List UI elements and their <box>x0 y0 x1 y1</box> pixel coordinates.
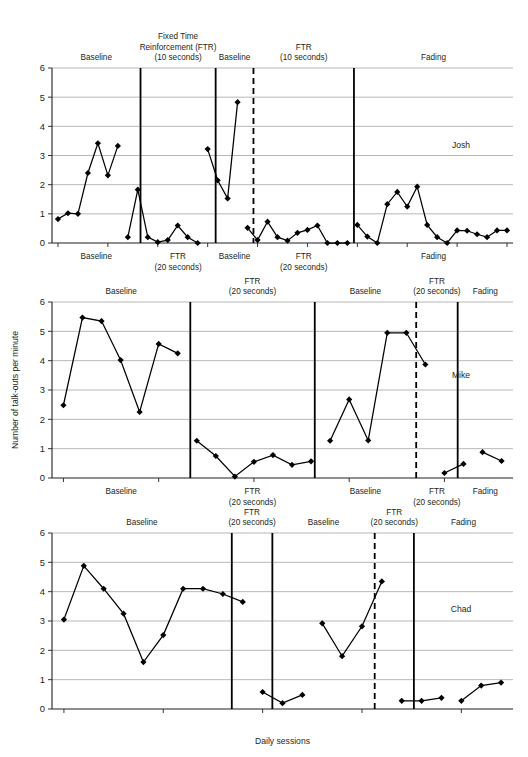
phase-label-below: FTR <box>429 487 445 496</box>
data-point-marker <box>289 462 295 468</box>
phase-labels-below: BaselineFTR(20 seconds)BaselineFTR(20 se… <box>81 252 447 272</box>
data-point-marker <box>156 341 162 347</box>
data-point-marker <box>115 143 121 149</box>
subject-label: Mike <box>452 370 470 380</box>
phase-label-above: Fading <box>473 287 498 296</box>
phase-label-below: Fading <box>473 487 498 496</box>
y-axis-title: Number of talk-outs per minute <box>10 331 20 449</box>
phase-label-above: (20 seconds) <box>228 518 276 527</box>
data-point-marker <box>314 222 320 228</box>
phase-label-above: (10 seconds) <box>154 53 202 62</box>
data-point-marker <box>55 216 61 222</box>
data-point-marker <box>98 318 104 324</box>
phase-labels-above: BaselineFTR(20 seconds)BaselineFTR(20 se… <box>105 277 498 297</box>
phase-label-below: FTR <box>296 252 312 261</box>
series-line <box>444 464 463 473</box>
series-line <box>208 102 238 198</box>
data-point-marker <box>105 172 111 178</box>
data-point-marker <box>304 227 310 233</box>
data-point-marker <box>225 195 231 201</box>
data-point-marker <box>346 396 352 402</box>
phase-label-below: (20 seconds) <box>154 263 202 272</box>
y-tick-label: 6 <box>40 296 45 307</box>
data-point-marker <box>438 695 444 701</box>
y-tick-label: 4 <box>40 121 45 132</box>
series-line <box>58 143 118 219</box>
phase-label-above: FTR <box>245 277 261 286</box>
phase-label-above: Fading <box>421 53 446 62</box>
data-point-marker <box>125 234 131 240</box>
data-point-marker <box>399 698 405 704</box>
y-tick-label: 0 <box>40 703 45 714</box>
phase-labels-above: BaselineFTR(20 seconds)BaselineFTR(20 se… <box>126 508 476 528</box>
data-point-marker <box>205 146 211 152</box>
gridlines <box>52 68 513 214</box>
phase-label-above: Baseline <box>105 287 137 296</box>
y-tick-label: 1 <box>40 674 45 685</box>
phase-labels-above: BaselineFixed TimeReinforcement (FTR)(10… <box>81 32 447 62</box>
phase-label-above: (10 seconds) <box>280 53 328 62</box>
phase-label-above: Fixed Time <box>158 32 198 41</box>
data-point-marker <box>260 689 266 695</box>
y-tick-label: 5 <box>40 92 45 103</box>
x-axis-title: Daily sessions <box>255 736 310 746</box>
y-tick-label: 0 <box>40 237 45 248</box>
series-line <box>357 187 507 243</box>
series-line <box>64 566 243 662</box>
phase-label-above: Baseline <box>126 518 158 527</box>
data-point-marker <box>374 240 380 246</box>
y-axis-ticks: 0123456 <box>40 296 52 483</box>
data-point-marker <box>498 680 504 686</box>
phase-label-below: Baseline <box>350 487 382 496</box>
y-tick-label: 5 <box>40 557 45 568</box>
x-axis-ticks <box>58 243 507 247</box>
data-point-marker <box>418 698 424 704</box>
subject-label: Josh <box>452 140 470 150</box>
y-tick-label: 3 <box>40 384 45 395</box>
y-axis-ticks: 0123456 <box>40 527 52 714</box>
data-point-marker <box>155 239 161 245</box>
data-point-marker <box>61 616 67 622</box>
y-tick-label: 2 <box>40 414 45 425</box>
y-tick-label: 6 <box>40 527 45 538</box>
data-point-marker <box>95 140 101 146</box>
data-point-marker <box>334 240 340 246</box>
phase-label-above: FTR <box>296 43 312 52</box>
data-point-marker <box>474 231 480 237</box>
phase-label-below: FTR <box>245 487 261 496</box>
data-point-marker <box>75 211 81 217</box>
phase-label-above: FTR <box>429 277 445 286</box>
panels-group: 0123456BaselineFixed TimeReinforcement (… <box>40 32 513 714</box>
data-point-marker <box>308 458 314 464</box>
phase-label-below: (20 seconds) <box>280 263 328 272</box>
y-tick-label: 3 <box>40 615 45 626</box>
josh-panel: 0123456BaselineFixed TimeReinforcement (… <box>40 32 513 272</box>
series-line <box>330 333 425 441</box>
gridlines <box>52 533 513 680</box>
data-point-marker <box>479 449 485 455</box>
y-tick-label: 1 <box>40 208 45 219</box>
y-tick-label: 3 <box>40 150 45 161</box>
data-point-marker <box>279 700 285 706</box>
gridlines <box>52 302 513 449</box>
phase-label-above: FTR <box>244 508 260 517</box>
y-tick-label: 4 <box>40 586 45 597</box>
data-point-marker <box>344 240 350 246</box>
y-tick-label: 4 <box>40 355 45 366</box>
data-point-marker <box>65 210 71 216</box>
y-tick-label: 1 <box>40 443 45 454</box>
data-series <box>55 99 510 246</box>
phase-labels-below: BaselineFTR(20 seconds)BaselineFTR(20 se… <box>105 487 498 507</box>
series-line <box>322 581 382 656</box>
data-point-marker <box>441 470 447 476</box>
phase-label-above: (20 seconds) <box>413 287 461 296</box>
phase-label-below: Baseline <box>219 252 251 261</box>
phase-label-above: FTR <box>386 508 402 517</box>
series-line <box>197 441 311 477</box>
multi-panel-line-chart: 0123456BaselineFixed TimeReinforcement (… <box>0 0 528 757</box>
data-point-marker <box>85 170 91 176</box>
phase-label-above: (20 seconds) <box>229 287 277 296</box>
data-point-marker <box>264 219 270 225</box>
phase-label-below: FTR <box>170 252 186 261</box>
y-axis-ticks: 0123456 <box>40 62 52 248</box>
